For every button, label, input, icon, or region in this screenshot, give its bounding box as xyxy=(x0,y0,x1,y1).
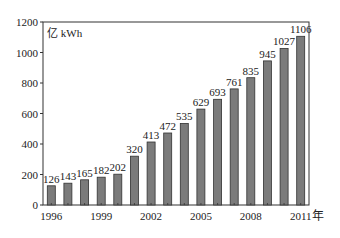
bar xyxy=(247,78,255,205)
bar-value-label: 629 xyxy=(193,96,210,108)
bar-value-label: 143 xyxy=(60,170,77,182)
y-tick-label: 1000 xyxy=(16,47,39,59)
bar xyxy=(114,174,122,205)
x-tick-label: 2011 xyxy=(290,210,312,222)
bar-value-label: 761 xyxy=(226,76,243,88)
x-tick-label: 1999 xyxy=(90,210,113,222)
bar-value-label: 320 xyxy=(126,143,143,155)
bar-value-label: 413 xyxy=(143,129,160,141)
bar-value-label: 693 xyxy=(209,86,226,98)
bar xyxy=(130,156,138,205)
x-axis-label: 年 xyxy=(312,209,324,223)
bar-value-label: 1027 xyxy=(273,35,296,47)
bar xyxy=(147,142,155,205)
x-tick-label: 2008 xyxy=(240,210,263,222)
bar-value-label: 165 xyxy=(76,167,93,179)
y-tick-label: 1200 xyxy=(16,16,39,28)
y-tick-label: 400 xyxy=(22,138,39,150)
chart-canvas: 0200400600800100012001261431651822023204… xyxy=(0,0,340,238)
bar xyxy=(263,61,271,205)
bar xyxy=(64,183,72,205)
y-tick-label: 800 xyxy=(22,77,39,89)
bar xyxy=(214,99,222,205)
bar-value-label: 535 xyxy=(176,110,193,122)
bar-chart: 0200400600800100012001261431651822023204… xyxy=(0,0,340,238)
bar xyxy=(164,133,172,205)
x-tick-label: 2005 xyxy=(190,210,213,222)
bar xyxy=(197,109,205,205)
unit-label: 亿 kWh xyxy=(47,27,83,39)
y-tick-label: 600 xyxy=(22,108,39,120)
bar xyxy=(297,36,305,205)
bar xyxy=(180,123,188,205)
bar xyxy=(97,177,105,205)
bar-value-label: 945 xyxy=(259,48,276,60)
y-tick-label: 200 xyxy=(22,169,39,181)
bar-value-label: 202 xyxy=(110,161,127,173)
bar-value-label: 1106 xyxy=(290,23,312,35)
x-tick-label: 2002 xyxy=(140,210,162,222)
bar-value-label: 126 xyxy=(43,173,60,185)
bar xyxy=(280,48,288,205)
x-tick-label: 1996 xyxy=(40,210,63,222)
y-tick-label: 0 xyxy=(33,199,39,211)
bar-value-label: 182 xyxy=(93,164,110,176)
bar xyxy=(47,186,55,205)
bar-value-label: 472 xyxy=(159,120,176,132)
bar xyxy=(230,89,238,205)
bar-value-label: 835 xyxy=(243,65,260,77)
bar xyxy=(81,180,89,205)
